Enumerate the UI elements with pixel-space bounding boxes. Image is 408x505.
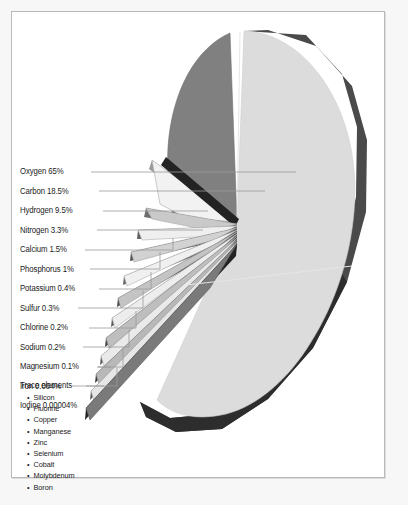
trace-element-item: •Copper: [27, 416, 57, 424]
callout-label-carbon: Carbon 18.5%: [20, 187, 69, 196]
trace-element-label: Zinc: [34, 438, 47, 447]
callout-label-trace-elements: Trace elements: [20, 381, 72, 390]
trace-element-item: •Cobalt: [27, 461, 54, 469]
trace-element-label: Molybdenum: [34, 471, 75, 480]
callout-label-nitrogen: Nitrogen 3.3%: [20, 226, 68, 235]
trace-element-item: •Fluorine: [27, 405, 59, 413]
trace-element-label: Fluorine: [34, 404, 60, 413]
callout-label-calcium: Calcium 1.5%: [20, 245, 67, 254]
trace-element-label: Manganese: [34, 427, 72, 436]
callout-label-magnesium: Magnesium 0.1%: [20, 362, 79, 371]
trace-element-item: •Boron: [27, 484, 53, 492]
callout-label-oxygen: Oxygen 65%: [20, 167, 64, 176]
trace-element-item: •Manganese: [27, 428, 71, 436]
callout-label-sulfur: Sulfur 0.3%: [20, 304, 59, 313]
trace-element-item: •Zinc: [27, 439, 47, 447]
trace-element-label: Silicon: [34, 393, 55, 402]
callout-label-hydrogen: Hydrogen 9.5%: [20, 206, 72, 215]
callout-label-sodium: Sodium 0.2%: [20, 343, 65, 352]
figure-container: Oxygen 65% Carbon 18.5% Hydrogen 9.5% Ni…: [0, 0, 408, 505]
trace-element-item: •Molybdenum: [27, 472, 75, 480]
callout-label-chlorine: Chlorine 0.2%: [20, 323, 68, 332]
trace-element-label: Selenium: [34, 449, 64, 458]
trace-element-label: Boron: [34, 483, 53, 492]
trace-element-label: Cobalt: [34, 460, 55, 469]
callout-label-potassium: Potassium 0.4%: [20, 284, 75, 293]
trace-element-label: Copper: [34, 415, 58, 424]
trace-element-item: •Selenium: [27, 450, 63, 458]
callout-label-phosphorus: Phosphorus 1%: [20, 265, 74, 274]
trace-element-item: •Silicon: [27, 394, 54, 402]
